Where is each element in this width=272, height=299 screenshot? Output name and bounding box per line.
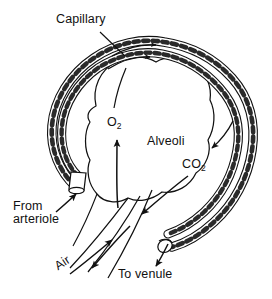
co2-entry-arrow-right (212, 121, 233, 148)
alveoli-capillary-diagram: Capillary O2 Alveoli CO2 Fromarteriole A… (0, 0, 272, 299)
label-oxygen: O2 (107, 116, 122, 133)
label-carbon-dioxide: CO2 (182, 158, 206, 175)
label-to-venule: To venule (118, 268, 172, 281)
venule-stub (156, 237, 175, 255)
alveolus-outline (86, 57, 214, 202)
label-from-arteriole-line2: arteriole (13, 213, 59, 226)
arteriole-stub (69, 172, 86, 194)
label-oxygen-text: O (107, 115, 117, 129)
label-alveoli: Alveoli (147, 135, 185, 148)
air-outflow-arrow (92, 226, 130, 268)
label-from-arteriole-line1: From (13, 199, 43, 213)
label-capillary: Capillary (56, 13, 106, 26)
label-carbon-dioxide-text: CO (182, 157, 201, 171)
diagram-canvas (0, 0, 272, 299)
label-from-arteriole: Fromarteriole (13, 200, 59, 226)
label-carbon-dioxide-subscript: 2 (201, 163, 206, 173)
label-oxygen-subscript: 2 (117, 121, 122, 131)
